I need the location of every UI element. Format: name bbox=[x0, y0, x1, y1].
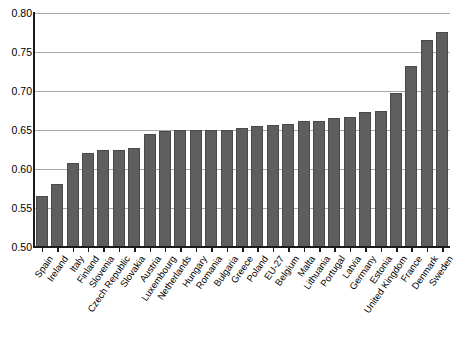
x-axis-tick-mark bbox=[165, 247, 167, 252]
x-axis-tick-mark bbox=[319, 247, 321, 252]
x-axis-tick-mark bbox=[242, 247, 244, 252]
x-axis-tick-mark bbox=[119, 247, 121, 252]
x-axis-tick-mark bbox=[88, 247, 90, 252]
x-axis-tick-mark bbox=[442, 247, 444, 252]
x-axis-tick-mark bbox=[350, 247, 352, 252]
x-axis-tick-mark bbox=[411, 247, 413, 252]
x-axis-tick-mark bbox=[180, 247, 182, 252]
x-axis-tick-mark bbox=[273, 247, 275, 252]
x-axis-tick-labels: SpainIrelandItalyFinlandSloveniaCzech Re… bbox=[0, 0, 460, 337]
x-axis-tick-mark bbox=[427, 247, 429, 252]
x-axis-tick-mark bbox=[103, 247, 105, 252]
x-axis-tick-mark bbox=[57, 247, 59, 252]
x-axis-tick-mark bbox=[134, 247, 136, 252]
x-axis-tick-mark bbox=[42, 247, 44, 252]
x-axis-tick-mark bbox=[150, 247, 152, 252]
x-axis-tick-mark bbox=[227, 247, 229, 252]
x-axis-tick-mark bbox=[396, 247, 398, 252]
x-axis-tick-mark bbox=[288, 247, 290, 252]
x-axis-tick-mark bbox=[334, 247, 336, 252]
x-axis-tick-mark bbox=[304, 247, 306, 252]
x-axis-tick-mark bbox=[211, 247, 213, 252]
x-axis-tick-mark bbox=[365, 247, 367, 252]
x-axis-tick-mark bbox=[257, 247, 259, 252]
x-axis-tick-mark bbox=[381, 247, 383, 252]
x-axis-tick-mark bbox=[196, 247, 198, 252]
x-axis-tick-mark bbox=[73, 247, 75, 252]
bar-chart: 0.800.750.700.650.600.550.50 SpainIrelan… bbox=[0, 0, 460, 337]
